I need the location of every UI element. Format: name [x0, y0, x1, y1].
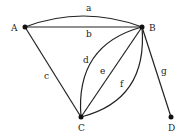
edge-label-c: c — [44, 71, 49, 81]
edge-c — [25, 27, 81, 117]
node-d — [169, 115, 174, 120]
node-b — [140, 25, 145, 30]
graph-diagram: A B C D a b c d e f g — [0, 0, 183, 139]
edge-a — [25, 16, 142, 27]
edge-label-d: d — [83, 55, 89, 65]
edge-label-f: f — [120, 79, 124, 89]
node-c — [79, 115, 84, 120]
node-label-c: C — [78, 123, 85, 133]
edge-label-b: b — [86, 29, 92, 39]
edge-label-e: e — [100, 66, 105, 76]
node-label-b: B — [149, 23, 156, 33]
node-a — [23, 25, 28, 30]
edge-label-a: a — [86, 3, 92, 13]
node-label-d: D — [168, 123, 175, 133]
edge-label-g: g — [161, 66, 167, 76]
node-label-a: A — [10, 23, 18, 33]
